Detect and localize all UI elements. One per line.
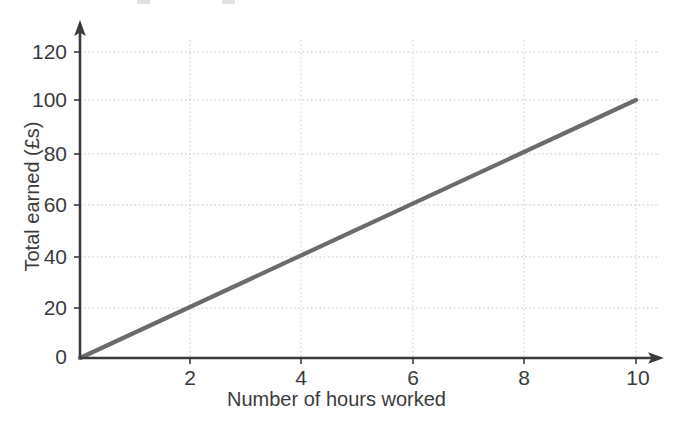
series-line-total-earned <box>80 100 636 358</box>
line-chart-plot <box>0 0 673 429</box>
vertical-gridlines <box>190 40 636 358</box>
x-tick-label-10: 10 <box>626 366 649 390</box>
x-tick-label-4: 4 <box>295 366 307 390</box>
x-axis-title: Number of hours worked <box>0 388 673 411</box>
chart-figure: 120 100 80 60 40 20 0 2 4 6 8 10 Number … <box>0 0 673 429</box>
horizontal-gridlines <box>80 52 660 308</box>
x-tick-label-8: 8 <box>518 366 530 390</box>
y-axis-title: Total earned (£s) <box>21 97 44 297</box>
x-tick-label-6: 6 <box>407 366 419 390</box>
x-tick-label-2: 2 <box>184 366 196 390</box>
y-axis-title-container: Total earned (£s) <box>10 0 44 429</box>
